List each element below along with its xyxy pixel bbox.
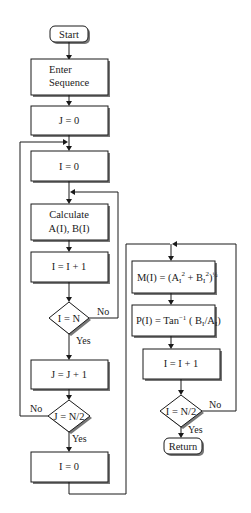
j-increment-label: J = J + 1 (51, 369, 87, 380)
i-increment-right-node: I = I + 1 (143, 349, 222, 381)
arrow-head (66, 101, 72, 106)
arrow-head (66, 297, 72, 302)
arrow-head (66, 395, 72, 400)
arrow-head (66, 247, 72, 252)
yes-label-1: Yes (76, 335, 91, 346)
yes-label-3: Yes (188, 424, 203, 435)
start-node: Start (50, 26, 90, 44)
j-init-label: J = 0 (59, 115, 80, 126)
flowchart: Start Enter Sequence J = 0 I = 0 Calcula… (0, 0, 251, 513)
arrow-head (168, 344, 174, 349)
j-init-node: J = 0 (31, 106, 110, 137)
no-label-2: No (30, 403, 42, 414)
i-increment-label: I = I + 1 (52, 261, 87, 272)
arrow-head (66, 199, 72, 204)
decision-i-n2-label: I = N/2 (166, 406, 196, 417)
return-node: Return (164, 438, 204, 456)
decision-j-equals-n2: J = N/2 (48, 400, 92, 434)
start-label: Start (59, 29, 79, 40)
i-increment-right-label: I = I + 1 (164, 358, 199, 369)
i-increment-node: I = I + 1 (31, 252, 110, 284)
arrow-head (178, 433, 184, 438)
yes-label-2: Yes (72, 433, 87, 444)
return-label: Return (169, 441, 198, 452)
no-label-1: No (97, 306, 109, 317)
arrow-head (66, 355, 72, 360)
i-reset-label: I = 0 (59, 461, 79, 472)
j-increment-node: J = J + 1 (31, 360, 110, 391)
magnitude-node: M(I) = (AI2 + BI2)½ (132, 261, 218, 295)
i-init-node: I = 0 (31, 151, 110, 183)
calculate-label-2: A(I), B(I) (49, 223, 90, 235)
phase-formula: P(I) = Tan−1 ( BI/AI) (136, 314, 221, 328)
enter-label-1: Enter (49, 64, 72, 75)
arrow-head (66, 146, 72, 151)
i-reset-node: I = 0 (31, 452, 110, 484)
enter-sequence-node: Enter Sequence (31, 59, 110, 97)
no-label-3: No (209, 399, 221, 410)
arrow-head (168, 256, 174, 261)
decision-i-n-label: I = N (58, 313, 81, 324)
enter-label-2: Sequence (49, 77, 90, 88)
arrow-head (70, 189, 75, 195)
calculate-node: Calculate A(I), B(I) (31, 204, 110, 242)
arrow-head (168, 300, 174, 305)
decision-j-n2-label: J = N/2 (53, 411, 84, 422)
phase-node: P(I) = Tan−1 ( BI/AI) (132, 305, 221, 338)
arrow-head (63, 139, 68, 145)
decision-i-equals-n: I = N (49, 302, 91, 336)
arrow-head (66, 447, 72, 452)
arrow-head (178, 390, 184, 395)
i-init-label: I = 0 (59, 161, 79, 172)
calculate-label-1: Calculate (49, 209, 89, 220)
